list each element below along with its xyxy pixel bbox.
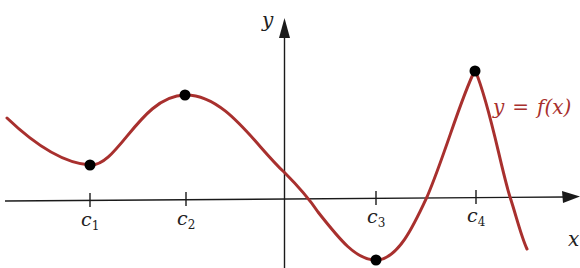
tick-c1: c1 [81, 193, 99, 233]
tick-c4: c4 [467, 190, 486, 229]
y-axis: y [261, 8, 290, 268]
tick-label-c4: c4 [467, 204, 486, 229]
x-axis-label: x [568, 227, 579, 251]
y-axis-label: y [261, 8, 274, 32]
tick-c2: c2 [177, 192, 195, 232]
x-axis-arrow-icon [562, 191, 580, 203]
point-c3-local-min [371, 255, 382, 266]
function-label: y=f(x) [492, 95, 571, 119]
y-axis-arrow-icon [279, 18, 290, 38]
point-c4-local-max [470, 66, 481, 77]
tick-label-c1: c1 [81, 208, 99, 233]
function-graph: x y c1 c2 c3 c4 y=f(x) [0, 0, 580, 268]
point-c2-local-max [180, 90, 191, 101]
tick-c3: c3 [367, 191, 385, 230]
point-c1-local-min [85, 160, 96, 171]
tick-label-c2: c2 [177, 207, 195, 232]
tick-label-c3: c3 [367, 205, 385, 230]
